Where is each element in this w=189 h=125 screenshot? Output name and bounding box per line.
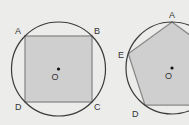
inscribed-pentagon-figure: A E D O xyxy=(118,10,189,119)
vertex-label-E: E xyxy=(118,50,124,60)
center-label-O: O xyxy=(165,71,172,81)
vertex-label-C: C xyxy=(94,102,101,112)
inscribed-square-figure: A B C D O xyxy=(12,22,106,116)
vertex-label-D: D xyxy=(132,109,139,119)
vertex-label-B: B xyxy=(94,26,100,36)
center-point-O xyxy=(170,66,173,69)
center-point-O xyxy=(57,67,60,70)
vertex-label-A: A xyxy=(15,26,21,36)
pentagon-ABCDE xyxy=(128,22,189,105)
geometry-diagram: A B C D O A E D O xyxy=(0,0,189,125)
vertex-label-D: D xyxy=(15,102,22,112)
center-label-O: O xyxy=(52,72,59,82)
vertex-label-A: A xyxy=(169,10,175,20)
